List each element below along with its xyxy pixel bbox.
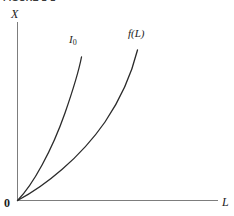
curve-label-fl: f(L) xyxy=(128,28,145,39)
plot-area xyxy=(0,0,234,216)
x-axis-label: L xyxy=(222,196,229,208)
origin-label: 0 xyxy=(4,197,10,209)
curve-label-i0: I0 xyxy=(69,34,77,47)
curve-label-i0-subscript: 0 xyxy=(73,38,77,47)
figure-container: FIGURE 1-1 X L 0 I0 f(L) xyxy=(0,0,234,216)
y-axis-label: X xyxy=(11,8,18,20)
